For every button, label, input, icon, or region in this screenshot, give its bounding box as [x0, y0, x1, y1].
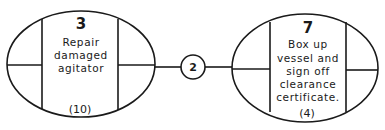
activity-number: 3 — [76, 15, 86, 33]
activity-node-3: 3 Repair damaged agitator (10) — [7, 11, 155, 117]
connector-label: 2 — [189, 61, 197, 74]
activity-duration: (4) — [299, 107, 315, 120]
network-diagram: 2 3 Repair damaged agitator (10) 7 Box u… — [0, 0, 385, 130]
activity-desc-line: vessel and — [277, 52, 339, 64]
activity-desc-line: clearance — [280, 78, 337, 90]
activity-desc-line: agitator — [58, 62, 104, 74]
connector-node: 2 — [181, 55, 205, 79]
activity-desc-line: sign off — [286, 65, 330, 77]
activity-desc-line: damaged — [54, 49, 108, 61]
activity-desc-line: certificate. — [276, 91, 340, 103]
activity-desc-line: Box up — [288, 38, 328, 50]
activity-duration: (10) — [69, 103, 92, 116]
activity-desc-line: Repair — [62, 36, 99, 48]
activity-number: 7 — [303, 19, 313, 37]
activity-node-7: 7 Box up vessel and sign off clearance c… — [232, 14, 378, 122]
